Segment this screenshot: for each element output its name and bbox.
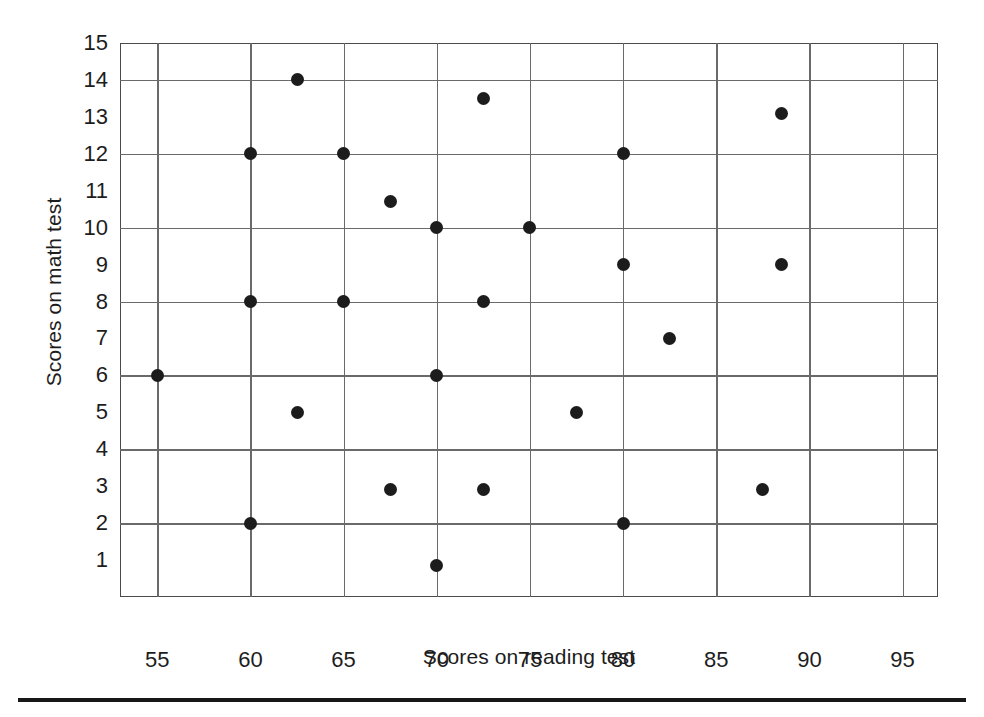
gridline-horizontal [120, 302, 938, 303]
data-point [291, 73, 304, 86]
gridline-vertical [716, 43, 717, 597]
data-point [570, 406, 583, 419]
gridline-vertical [809, 43, 810, 597]
data-point [244, 295, 257, 308]
data-point [775, 107, 788, 120]
data-point [617, 147, 630, 160]
y-tick-label: 11 [68, 178, 108, 204]
data-point [151, 369, 164, 382]
y-tick-label: 9 [68, 252, 108, 278]
y-tick-label: 8 [68, 289, 108, 315]
gridline-horizontal [120, 154, 938, 155]
y-tick-label: 12 [68, 141, 108, 167]
y-axis-title: Scores on math test [42, 142, 66, 442]
y-tick-label: 4 [68, 436, 108, 462]
gridline-vertical [344, 43, 345, 597]
gridline-vertical [530, 43, 531, 597]
y-tick-label: 14 [68, 67, 108, 93]
data-point [244, 517, 257, 530]
y-tick-label: 10 [68, 215, 108, 241]
data-point [384, 483, 397, 496]
plot-area: 556065707580859095 123456789101112131415 [120, 43, 938, 597]
y-tick-label: 13 [68, 104, 108, 130]
gridline-vertical [623, 43, 624, 597]
y-tick-label: 15 [68, 30, 108, 56]
y-tick-label: 1 [68, 547, 108, 573]
gridline-vertical [903, 43, 904, 597]
gridline-vertical [157, 43, 158, 597]
bottom-divider-rule [18, 698, 966, 702]
gridline-horizontal [120, 375, 938, 376]
data-point [384, 195, 397, 208]
data-point [291, 406, 304, 419]
scatter-plot-figure: Scores on math test 556065707580859095 1… [0, 0, 984, 717]
gridline-vertical [250, 43, 251, 597]
data-point [617, 258, 630, 271]
gridline-horizontal [120, 449, 938, 450]
data-point [617, 517, 630, 530]
gridline-horizontal [120, 80, 938, 81]
x-axis-title: Scores on reading test [120, 645, 938, 669]
gridline-horizontal [120, 523, 938, 524]
y-tick-label: 5 [68, 399, 108, 425]
gridline-vertical [437, 43, 438, 597]
y-tick-label: 6 [68, 362, 108, 388]
y-tick-label: 2 [68, 510, 108, 536]
y-tick-label: 3 [68, 473, 108, 499]
data-point [477, 295, 490, 308]
y-tick-label: 7 [68, 325, 108, 351]
data-point [477, 92, 490, 105]
data-point [775, 258, 788, 271]
